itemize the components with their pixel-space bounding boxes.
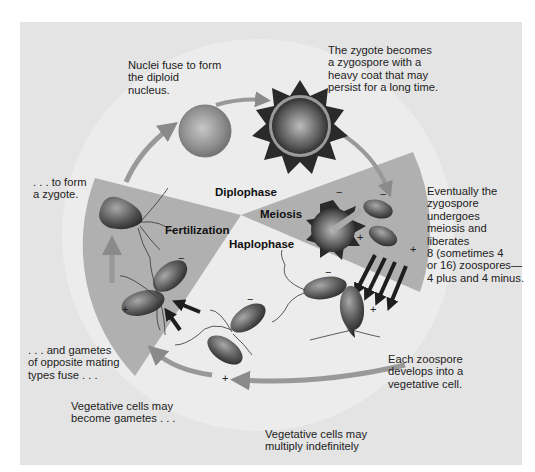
minus-sign: − <box>247 293 253 305</box>
label-fertilization: Fertilization <box>165 224 230 236</box>
minus-sign: − <box>336 186 342 198</box>
label-haplophase: Haplophase <box>229 238 294 250</box>
caption-form-zygote: . . . to form a zygote. <box>33 176 86 201</box>
caption-multiply: Vegetative cells may multiply indefinite… <box>265 428 367 453</box>
caption-meiosis-release: Eventually the zygospore undergoes meios… <box>427 185 524 284</box>
plus-sign: + <box>370 303 376 315</box>
caption-become-gametes: Vegetative cells may become gametes . . … <box>71 400 175 425</box>
caption-each-zoospore: Each zoospore develops into a vegetative… <box>388 353 463 390</box>
minus-sign: − <box>178 252 184 264</box>
plus-sign: + <box>222 372 228 384</box>
label-meiosis: Meiosis <box>260 208 302 220</box>
label-diplophase: Diplophase <box>215 186 277 198</box>
minus-sign: − <box>380 188 386 200</box>
caption-zygospore: The zygote becomes a zygospore with a he… <box>328 44 438 94</box>
caption-nuclei-fuse: Nuclei fuse to form the diploid nucleus. <box>128 59 221 96</box>
caption-gametes-fuse: . . . and gametes of opposite mating typ… <box>28 344 119 381</box>
plus-sign: + <box>122 303 128 315</box>
plus-sign: + <box>357 231 363 243</box>
zygote-cell <box>179 105 231 157</box>
minus-sign: − <box>325 266 331 278</box>
plus-sign: + <box>410 243 416 255</box>
